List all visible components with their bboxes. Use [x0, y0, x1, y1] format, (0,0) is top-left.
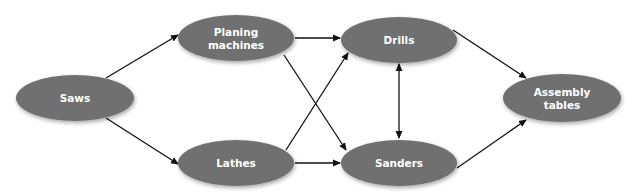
node-label: Planing: [214, 26, 258, 38]
arrow-sanders-to-assembly: [457, 120, 526, 168]
arrow-saws-to-lathes: [106, 118, 178, 164]
node-sanders: Sanders: [341, 140, 457, 186]
arrow-planing-to-sanders: [284, 55, 346, 150]
flow-diagram: SawsPlaningmachinesLathesDrillsSandersAs…: [0, 0, 640, 195]
node-label: Sanders: [375, 157, 423, 169]
node-label: Drills: [384, 34, 415, 46]
arrow-lathes-to-drills: [286, 53, 348, 150]
edges-layer: [106, 30, 526, 168]
arrow-saws-to-planing: [106, 35, 178, 78]
node-label: machines: [208, 39, 264, 51]
node-lathes: Lathes: [178, 140, 294, 186]
nodes-layer: SawsPlaningmachinesLathesDrillsSandersAs…: [16, 15, 621, 186]
node-label: Saws: [60, 92, 91, 104]
arrow-drills-to-assembly: [453, 30, 526, 78]
node-label: Assembly: [534, 86, 591, 98]
node-label: tables: [544, 99, 581, 111]
node-label: Lathes: [216, 157, 256, 169]
node-saws: Saws: [16, 75, 134, 121]
node-planing: Planingmachines: [178, 15, 294, 61]
node-drills: Drills: [341, 17, 457, 63]
node-assembly: Assemblytables: [503, 74, 621, 122]
